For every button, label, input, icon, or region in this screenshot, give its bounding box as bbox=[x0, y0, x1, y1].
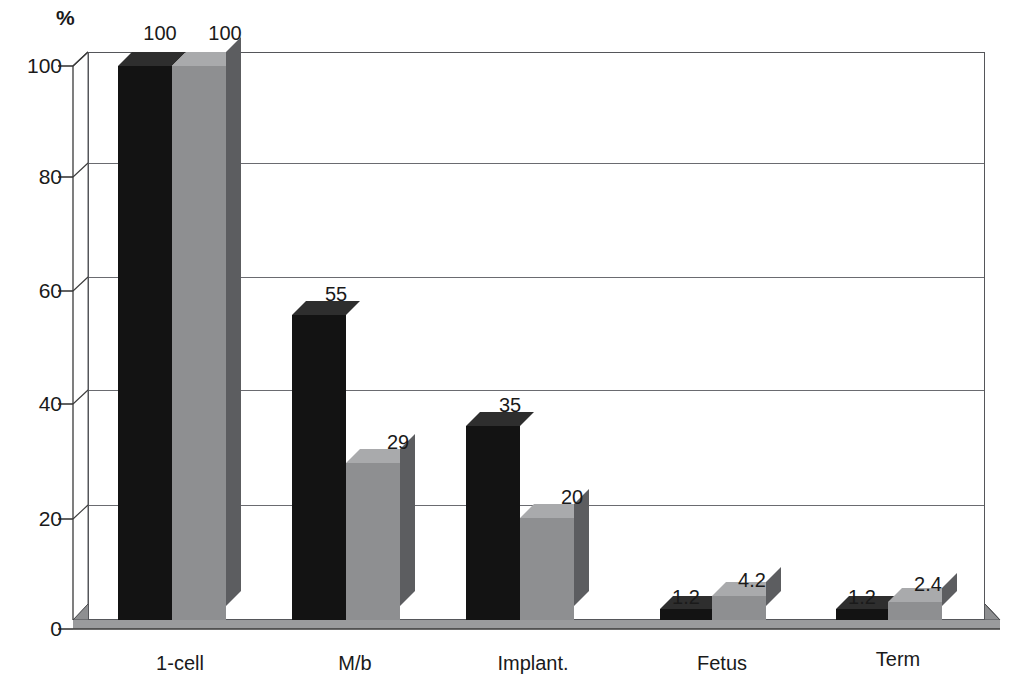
bar-value-fetus-gray: 4.2 bbox=[738, 569, 766, 592]
x-tick-label-term: Term bbox=[876, 648, 920, 671]
bar-value-implant-gray: 20 bbox=[561, 486, 583, 509]
bar-value-1cell-black: 100 bbox=[143, 22, 176, 45]
bar-mb-gray[interactable] bbox=[346, 463, 400, 620]
bar-implant-gray[interactable] bbox=[520, 518, 574, 620]
x-tick-label-mb: M/b bbox=[338, 652, 371, 675]
bar-term-black[interactable] bbox=[836, 609, 888, 620]
bar-side-face bbox=[400, 434, 415, 606]
chart-canvas: % 100 80 bbox=[0, 0, 1015, 700]
bar-front-face bbox=[836, 609, 888, 620]
x-tick-label-implant: Implant. bbox=[497, 652, 568, 675]
bar-value-term-black: 1.2 bbox=[848, 586, 876, 609]
bar-value-term-gray: 2.4 bbox=[914, 573, 942, 596]
bar-1cell-gray[interactable] bbox=[172, 66, 226, 620]
bar-front-face bbox=[888, 602, 942, 620]
bar-term-gray[interactable] bbox=[888, 602, 942, 620]
bar-mb-black[interactable] bbox=[292, 315, 346, 620]
bar-front-face bbox=[292, 315, 346, 620]
bar-front-face bbox=[118, 66, 172, 620]
bar-side-face bbox=[942, 573, 957, 606]
bar-front-face bbox=[172, 66, 226, 620]
bar-value-mb-gray: 29 bbox=[387, 431, 409, 454]
bar-front-face bbox=[346, 463, 400, 620]
bar-value-1cell-gray: 100 bbox=[208, 22, 241, 45]
bar-front-face bbox=[660, 609, 712, 620]
bar-side-face bbox=[766, 567, 781, 606]
bar-implant-black[interactable] bbox=[466, 426, 520, 620]
bar-value-implant-black: 35 bbox=[499, 394, 521, 417]
bar-value-mb-black: 55 bbox=[325, 283, 347, 306]
bar-value-fetus-black: 1.2 bbox=[672, 586, 700, 609]
x-tick-label-1cell: 1-cell bbox=[156, 652, 204, 675]
bar-side-face bbox=[226, 37, 241, 606]
bar-front-face bbox=[520, 518, 574, 620]
bar-fetus-gray[interactable] bbox=[712, 596, 766, 620]
bar-front-face bbox=[712, 596, 766, 620]
bar-front-face bbox=[466, 426, 520, 620]
bars-layer: 100 100 55 29 35 20 bbox=[0, 0, 1015, 700]
bar-1cell-black[interactable] bbox=[118, 66, 172, 620]
x-tick-label-fetus: Fetus bbox=[697, 652, 747, 675]
bar-fetus-black[interactable] bbox=[660, 609, 712, 620]
